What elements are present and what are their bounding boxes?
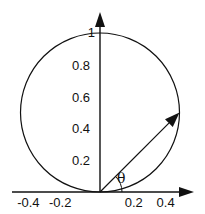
x-tick-label: 0.4 [157,195,175,210]
vector-line [100,123,169,192]
x-tick-label: 0.2 [125,195,143,210]
y-tick-label: 0.4 [72,121,90,136]
polar-circle-diagram: θ-0.4-0.20.20.40.20.40.60.81 [0,0,205,214]
y-tick-label: 0.2 [72,153,90,168]
x-tick-label: -0.4 [17,195,39,210]
y-tick-label: 0.8 [72,58,90,73]
angle-label: θ [117,170,125,186]
y-tick-label: 0.6 [72,90,90,105]
x-axis-arrowhead-icon [179,187,194,197]
x-tick-label: -0.2 [49,195,71,210]
y-tick-label: 1 [88,25,95,40]
labels: θ-0.4-0.20.20.40.20.40.60.81 [17,25,174,210]
y-axis-arrowhead-icon [95,12,105,27]
axes [12,12,194,197]
